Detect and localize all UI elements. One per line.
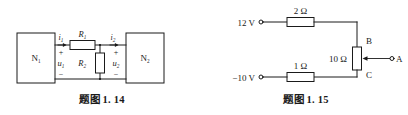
voltage-u2-plus: + <box>114 48 119 57</box>
terminal-a-label: A <box>396 54 403 64</box>
resistor-r2-body <box>96 53 105 73</box>
current-i1-label: i1 <box>59 33 64 43</box>
terminal-a-dot <box>390 57 394 61</box>
voltage-u2-minus: − <box>114 70 119 79</box>
source-neg10v-terminal <box>259 75 263 79</box>
figure-1-15: 12 V −10 V 2 Ω 1 Ω 10 Ω B C A 题图 1. 15 <box>204 0 408 115</box>
resistor-1ohm-label: 1 Ω <box>294 61 308 71</box>
voltage-u1-minus: − <box>59 70 64 79</box>
current-i2-label: i2 <box>111 33 116 43</box>
network-2-label: N2 <box>140 53 150 64</box>
voltage-u1-label: u1 <box>58 58 65 69</box>
figure-1-15-caption: 题图 1. 15 <box>204 91 408 106</box>
resistor-1ohm-body <box>287 73 314 82</box>
network-1-label: N1 <box>31 53 41 64</box>
junction-dot-bottom <box>99 78 101 80</box>
current-i2-arrow-head <box>115 43 119 47</box>
voltage-u1-plus: + <box>59 48 64 57</box>
current-i1-arrow-head <box>63 43 67 47</box>
resistor-2ohm-label: 2 Ω <box>294 6 308 16</box>
resistor-10ohm-label: 10 Ω <box>329 54 347 64</box>
source-12v-label: 12 V <box>237 18 255 28</box>
figure-1-14: N1 N2 R1 R2 i1 i2 + u1 − + u2 − 题图 1. 14 <box>0 0 204 115</box>
source-neg10v-label: −10 V <box>232 73 255 83</box>
wiper-arrow-head <box>363 56 368 61</box>
resistor-r1-label: R1 <box>78 29 87 40</box>
schematic-potentiometer-divider: 12 V −10 V 2 Ω 1 Ω 10 Ω B C A <box>204 0 408 92</box>
node-b-label: B <box>366 36 372 46</box>
figure-1-14-caption: 题图 1. 14 <box>0 91 204 106</box>
junction-dot-top <box>99 44 101 46</box>
source-12v-terminal <box>259 20 263 24</box>
resistor-2ohm-body <box>287 18 314 27</box>
resistor-r1-body <box>70 41 95 50</box>
voltage-u2-label: u2 <box>113 58 120 69</box>
schematic-two-port-network: N1 N2 R1 R2 i1 i2 + u1 − + u2 − <box>0 0 204 92</box>
resistor-10ohm-body <box>353 47 362 70</box>
resistor-r2-label: R2 <box>77 58 86 69</box>
node-c-label: C <box>366 70 372 80</box>
